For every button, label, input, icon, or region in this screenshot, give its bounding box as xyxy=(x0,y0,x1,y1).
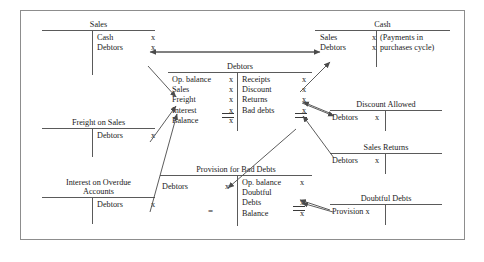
entry-row: Doubtful xyxy=(242,188,304,198)
account-cash: Cash Sales x Debtors x (Payments in purc… xyxy=(315,20,450,67)
account-doubtful-debts-divider xyxy=(385,205,386,225)
entry-row: Returns x xyxy=(242,95,306,105)
entry-row: Debtors x xyxy=(332,156,379,166)
title-line-2: Accounts xyxy=(83,187,114,196)
account-sales-returns-credit xyxy=(385,154,442,174)
account-freight-on-sales-title: Freight on Sales xyxy=(42,118,155,127)
account-interest-on-overdue-accounts-divider xyxy=(92,198,93,224)
entry-row: Debtors x xyxy=(162,182,229,192)
account-provision-for-bad-debts: Provision for Bad Debts Debtors x = Op. … xyxy=(160,165,312,226)
entry-row: Balance x xyxy=(242,209,304,219)
account-doubtful-debts-debit: Provision x xyxy=(330,205,385,225)
account-sales-title: Sales xyxy=(42,20,155,29)
account-debtors-title: Debtors xyxy=(168,62,312,71)
account-sales-divider xyxy=(92,31,93,75)
entry-row: Op. balance x xyxy=(242,178,304,188)
entry-row: Op. balance x xyxy=(172,75,233,85)
account-debtors-debit: Op. balance x Sales x Freight x Interest… xyxy=(168,73,237,131)
account-debtors: Debtors Op. balance x Sales x Freight x … xyxy=(168,62,312,131)
entry-row: Bad debts x xyxy=(242,106,306,116)
account-doubtful-debts: Doubtful Debts Provision x xyxy=(330,194,442,225)
account-discount-allowed-debit: Debtors x xyxy=(330,111,385,131)
cash-credit-note: (Payments in purchases cycle) xyxy=(380,33,450,53)
account-provision-for-bad-debts-title: Provision for Bad Debts xyxy=(160,165,312,174)
account-discount-allowed-title: Discount Allowed xyxy=(330,100,442,109)
account-interest-on-overdue-accounts: Interest on Overdue Accounts Debtors x xyxy=(42,178,155,224)
account-debtors-divider xyxy=(237,73,238,131)
account-cash-credit: (Payments in purchases cycle) xyxy=(376,31,450,67)
account-provision-for-bad-debts-divider xyxy=(237,176,238,226)
entry-row: Sales x xyxy=(320,33,376,43)
account-freight-on-sales: Freight on Sales Debtors x xyxy=(42,118,155,157)
account-interest-on-overdue-accounts-title: Interest on Overdue Accounts xyxy=(42,178,155,197)
account-freight-on-sales-debit xyxy=(42,129,92,157)
account-doubtful-debts-title: Doubtful Debts xyxy=(330,194,442,203)
account-sales-returns-title: Sales Returns xyxy=(330,143,442,152)
account-sales-credit: Cash x Debtors x xyxy=(92,31,155,75)
account-doubtful-debts-credit xyxy=(385,205,442,225)
entry-row: Balance x xyxy=(172,116,233,126)
account-sales-returns-debit: Debtors x xyxy=(330,154,385,174)
account-cash-title: Cash xyxy=(315,20,450,29)
entry-row: Debtors x xyxy=(320,43,376,53)
entry-row: Receipts x xyxy=(242,75,306,85)
equals-sign: = xyxy=(208,206,213,216)
entry-row: Provision x xyxy=(332,207,381,217)
account-provision-for-bad-debts-debit: Debtors x = xyxy=(160,176,237,226)
account-interest-on-overdue-accounts-debit xyxy=(42,198,92,224)
account-freight-on-sales-divider xyxy=(92,129,93,157)
account-debtors-credit: Receipts x Discount x Returns x Bad debt… xyxy=(237,73,312,131)
entry-row: Debtors x xyxy=(97,200,155,210)
account-sales: Sales Cash x Debtors x xyxy=(42,20,155,75)
entry-row: Interest x xyxy=(172,106,233,116)
account-discount-allowed-divider xyxy=(385,111,386,131)
entry-row: Sales x xyxy=(172,85,233,95)
entry-row: Cash x xyxy=(97,33,155,43)
account-discount-allowed: Discount Allowed Debtors x xyxy=(330,100,442,131)
entry-row: Debtors x xyxy=(332,113,379,123)
account-freight-on-sales-credit: Debtors x xyxy=(92,129,155,157)
entry-row: Debts x xyxy=(242,198,304,208)
account-sales-returns-divider xyxy=(385,154,386,174)
account-interest-on-overdue-accounts-credit: Debtors x xyxy=(92,198,155,224)
account-sales-debit xyxy=(42,31,92,75)
account-provision-for-bad-debts-credit: Op. balance x Doubtful Debts x Balance x xyxy=(237,176,312,226)
entry-row: Debtors x xyxy=(97,131,155,141)
account-cash-divider xyxy=(376,31,377,67)
entry-row: Debtors x xyxy=(97,43,155,53)
account-cash-debit: Sales x Debtors x xyxy=(315,31,376,67)
diagram-canvas: Sales Cash x Debtors x Cash xyxy=(0,0,484,262)
entry-row: Freight x xyxy=(172,95,233,105)
entry-row: Discount x xyxy=(242,85,306,95)
title-line-1: Interest on Overdue xyxy=(66,178,131,187)
account-sales-returns: Sales Returns Debtors x xyxy=(330,143,442,174)
account-discount-allowed-credit xyxy=(385,111,442,131)
